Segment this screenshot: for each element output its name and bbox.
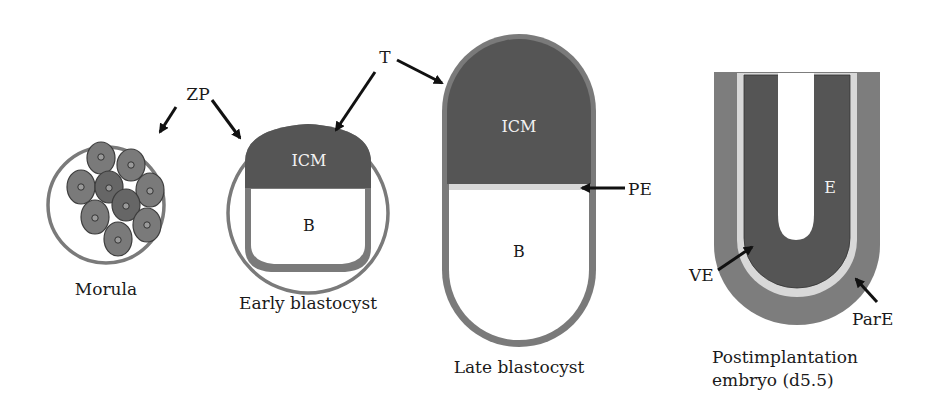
- zp-arrow-morula: [160, 107, 176, 132]
- postimplantation-epiblast-label: E: [824, 178, 836, 197]
- postimplantation-caption-line2: embryo (d5.5): [712, 370, 834, 390]
- late-blastocyst-icm: [447, 39, 591, 184]
- t-label: T: [379, 47, 391, 67]
- early-blastocyst-blastocoel-label: B: [303, 216, 315, 235]
- postimplantation-stage: E Postimplantation embryo (d5.5): [712, 72, 880, 390]
- late-blastocyst-primitive-endoderm: [449, 184, 589, 190]
- late-blastocyst-blastocoel-label: B: [513, 242, 525, 261]
- late-blastocyst-caption: Late blastocyst: [454, 357, 585, 377]
- pe-label: PE: [628, 179, 652, 199]
- pare-label: ParE: [852, 309, 893, 329]
- early-blastocyst-icm-label: ICM: [292, 151, 327, 170]
- zp-arrow-early: [212, 100, 240, 138]
- early-blastocyst-caption: Early blastocyst: [239, 293, 377, 313]
- embryo-development-diagram: Morula ICM B Early blastocyst ICM B Late…: [0, 0, 934, 410]
- ve-label: VE: [688, 265, 714, 285]
- late-blastocyst-blastocoel: [449, 190, 589, 340]
- postimplantation-caption-line1: Postimplantation: [712, 347, 858, 367]
- t-arrow-late: [397, 60, 442, 83]
- early-blastocyst-stage: ICM B Early blastocyst: [228, 124, 388, 313]
- t-arrow-early: [336, 72, 375, 130]
- late-blastocyst-stage: ICM B Late blastocyst: [442, 34, 596, 377]
- zp-label: ZP: [186, 84, 209, 104]
- late-blastocyst-icm-label: ICM: [502, 117, 537, 136]
- postimplantation-cavity: [778, 73, 814, 240]
- morula-stage: Morula: [48, 142, 164, 299]
- morula-caption: Morula: [75, 279, 137, 299]
